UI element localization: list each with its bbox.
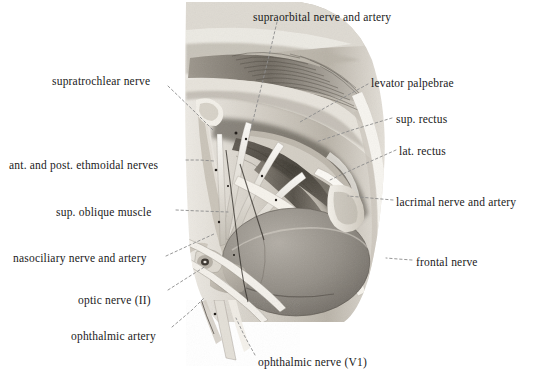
label-ethmoidal: ant. and post. ethmoidal nerves [9, 160, 158, 172]
label-sup-oblique: sup. oblique muscle [56, 207, 151, 219]
apex-bundle [186, 296, 300, 360]
label-lat-rectus: lat. rectus [399, 146, 446, 158]
label-levator: levator palpebrae [371, 78, 454, 90]
label-ophthalmic-n: ophthalmic nerve (V1) [258, 357, 367, 369]
orbit-illustration [0, 0, 543, 377]
label-nasociliary: nasociliary nerve and artery [13, 253, 147, 265]
label-lacrimal: lacrimal nerve and artery [396, 197, 516, 209]
orbit-body [180, 0, 390, 330]
label-ophthalmic-a: ophthalmic artery [71, 331, 156, 343]
label-supratrochlear: supratrochlear nerve [52, 76, 150, 88]
label-frontal: frontal nerve [416, 257, 478, 269]
label-optic: optic nerve (II) [78, 295, 151, 307]
label-sup-rectus: sup. rectus [396, 114, 447, 126]
anatomy-plate: supraorbital nerve and arterysupratrochl… [0, 0, 543, 377]
label-supraorbital: supraorbital nerve and artery [253, 12, 391, 24]
